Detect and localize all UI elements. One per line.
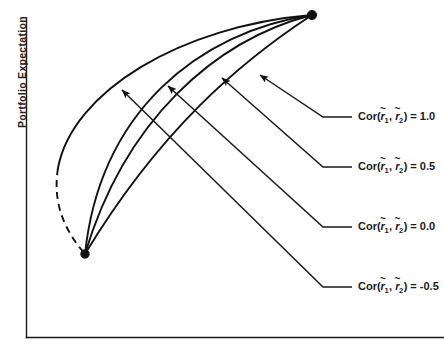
legend-prefix-2: Cor( (358, 220, 381, 232)
frontier-curve-cor-neg-0-5-dashed (57, 168, 85, 254)
callout-leader-cor-neg-0-5 (122, 90, 352, 287)
legend-sub2-2: 2 (399, 226, 403, 235)
legend-suffix-0: ) = (404, 110, 420, 122)
frontier-curve-cor-neg-0-5-solid (58, 15, 312, 168)
frontier-curve-cor-1-0 (85, 15, 312, 254)
legend-value-3: -0.5 (420, 280, 439, 292)
tilde-icon: ~ (395, 214, 401, 224)
tilde-icon: ~ (395, 274, 401, 284)
legend-sub2-0: 2 (399, 116, 403, 125)
legend-prefix-0: Cor( (358, 110, 381, 122)
tilde-icon: ~ (380, 214, 386, 224)
figure-root: Portfolio Expectation Cor(~r1, ~r2) = 1.… (0, 0, 444, 348)
lower-left-anchor-dot (81, 250, 89, 258)
legend-sub1-0: 1 (384, 116, 388, 125)
legend-suffix-1: ) = (404, 160, 420, 172)
anchor-points-group (81, 10, 317, 258)
legend-label-cor-0-0: Cor(~r1, ~r2) = 0.0 (358, 221, 435, 232)
legend-sub1-1: 1 (384, 166, 388, 175)
tilde-icon: ~ (395, 104, 401, 114)
legend-label-cor-neg-0-5: Cor(~r1, ~r2) = -0.5 (358, 281, 439, 292)
legend-sub2-3: 2 (399, 286, 403, 295)
y-axis-label: Portfolio Expectation (16, 16, 28, 128)
legend-suffix-2: ) = (404, 220, 420, 232)
legend-prefix-3: Cor( (358, 280, 381, 292)
callout-leaders-group (122, 75, 352, 287)
legend-suffix-3: ) = (404, 280, 420, 292)
tilde-icon: ~ (380, 154, 386, 164)
legend-sub1-3: 1 (384, 286, 388, 295)
legend-label-cor-0-5: Cor(~r1, ~r2) = 0.5 (358, 161, 435, 172)
legend-sub2-1: 2 (399, 166, 403, 175)
frontier-curve-cor-0-5 (85, 15, 312, 254)
callout-leader-cor-0-0 (168, 86, 352, 227)
callout-leader-cor-1-0 (260, 75, 352, 117)
tilde-icon: ~ (380, 274, 386, 284)
upper-right-anchor-dot (307, 10, 316, 19)
tilde-icon: ~ (395, 154, 401, 164)
legend-value-2: 0.0 (420, 220, 435, 232)
frontier-curve-cor-0-0 (85, 15, 312, 254)
legend-prefix-1: Cor( (358, 160, 381, 172)
frontier-curves-group (57, 15, 312, 254)
figure-canvas (0, 0, 444, 348)
legend-value-1: 0.5 (420, 160, 435, 172)
legend-sub1-2: 1 (384, 226, 388, 235)
legend-value-0: 1.0 (420, 110, 435, 122)
tilde-icon: ~ (380, 104, 386, 114)
legend-label-cor-1-0: Cor(~r1, ~r2) = 1.0 (358, 111, 435, 122)
